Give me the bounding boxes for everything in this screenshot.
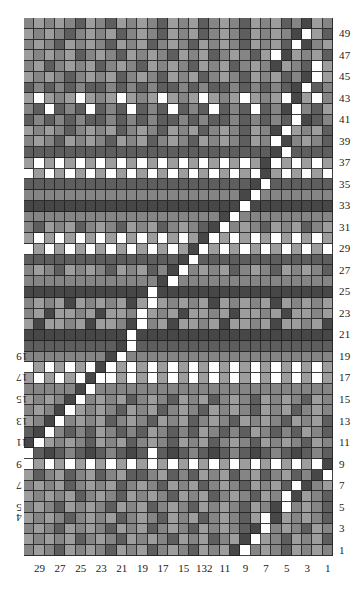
pattern-cell: [179, 309, 189, 320]
pattern-cell: [137, 330, 147, 341]
pattern-cell: [96, 104, 106, 115]
pattern-cell: [209, 502, 219, 513]
pattern-cell: [76, 513, 86, 524]
pattern-cell: [189, 405, 199, 416]
pattern-cell: [34, 40, 44, 51]
pattern-cell: [209, 158, 219, 169]
pattern-cell: [45, 190, 55, 201]
pattern-cell: [240, 276, 250, 287]
pattern-cell: [292, 524, 302, 535]
pattern-cell: [158, 40, 168, 51]
pattern-cell: [240, 470, 250, 481]
pattern-cell: [271, 298, 281, 309]
pattern-cell: [292, 93, 302, 104]
pattern-cell: [220, 491, 230, 502]
pattern-cell: [251, 416, 261, 427]
pattern-cell: [209, 222, 219, 233]
pattern-cell: [45, 362, 55, 373]
pattern-cell: [55, 416, 65, 427]
pattern-cell: [96, 72, 106, 83]
pattern-cell: [96, 470, 106, 481]
pattern-cell: [148, 470, 158, 481]
pattern-cell: [65, 50, 75, 61]
pattern-cell: [292, 158, 302, 169]
pattern-cell: [179, 341, 189, 352]
pattern-cell: [127, 373, 137, 384]
pattern-cell: [106, 276, 116, 287]
pattern-cell: [261, 491, 271, 502]
pattern-cell: [271, 72, 281, 83]
pattern-cell: [230, 190, 240, 201]
pattern-cell: [220, 126, 230, 137]
pattern-cell: [106, 416, 116, 427]
pattern-cell: [230, 265, 240, 276]
pattern-cell: [312, 169, 322, 180]
pattern-cell: [45, 255, 55, 266]
row-label-left: 9: [16, 459, 38, 470]
pattern-cell: [230, 513, 240, 524]
pattern-cell: [34, 276, 44, 287]
pattern-cell: [45, 83, 55, 94]
pattern-cell: [271, 330, 281, 341]
pattern-cell: [261, 126, 271, 137]
pattern-cell: [168, 40, 178, 51]
pattern-cell: [271, 405, 281, 416]
pattern-cell: [158, 459, 168, 470]
pattern-cell: [209, 83, 219, 94]
pattern-cell: [127, 29, 137, 40]
pattern-cell: [168, 534, 178, 545]
pattern-cell: [168, 61, 178, 72]
pattern-cell: [209, 115, 219, 126]
pattern-cell: [148, 427, 158, 438]
pattern-cell: [127, 276, 137, 287]
pattern-cell: [302, 481, 312, 492]
pattern-cell: [76, 222, 86, 233]
pattern-cell: [220, 330, 230, 341]
pattern-cell: [189, 169, 199, 180]
pattern-cell: [271, 50, 281, 61]
pattern-cell: [127, 352, 137, 363]
pattern-cell: [199, 384, 209, 395]
pattern-cell: [282, 169, 292, 180]
pattern-cell: [34, 93, 44, 104]
pattern-cell: [127, 427, 137, 438]
pattern-cell: [312, 438, 322, 449]
pattern-cell: [271, 373, 281, 384]
pattern-cell: [240, 18, 250, 29]
pattern-cell: [282, 427, 292, 438]
pattern-cell: [240, 233, 250, 244]
pattern-cell: [199, 405, 209, 416]
pattern-cell: [251, 459, 261, 470]
pattern-cell: [137, 265, 147, 276]
pattern-cell: [271, 534, 281, 545]
pattern-cell: [312, 362, 322, 373]
pattern-cell: [45, 147, 55, 158]
pattern-cell: [261, 341, 271, 352]
pattern-cell: [302, 93, 312, 104]
pattern-cell: [45, 534, 55, 545]
pattern-cell: [282, 50, 292, 61]
pattern-cell: [106, 212, 116, 223]
pattern-cell: [240, 395, 250, 406]
pattern-cell: [148, 93, 158, 104]
pattern-cell: [282, 136, 292, 147]
pattern-cell: [45, 395, 55, 406]
pattern-cell: [148, 265, 158, 276]
pattern-cell: [323, 104, 333, 115]
pattern-cell: [76, 83, 86, 94]
pattern-cell: [179, 201, 189, 212]
pattern-cell: [76, 201, 86, 212]
pattern-cell: [230, 83, 240, 94]
pattern-cell: [189, 265, 199, 276]
pattern-cell: [220, 502, 230, 513]
pattern-cell: [302, 513, 312, 524]
pattern-cell: [189, 395, 199, 406]
pattern-cell: [168, 190, 178, 201]
pattern-cell: [271, 287, 281, 298]
pattern-cell: [158, 502, 168, 513]
pattern-cell: [168, 438, 178, 449]
pattern-cell: [240, 126, 250, 137]
pattern-cell: [127, 416, 137, 427]
pattern-cell: [24, 309, 34, 320]
pattern-cell: [55, 298, 65, 309]
